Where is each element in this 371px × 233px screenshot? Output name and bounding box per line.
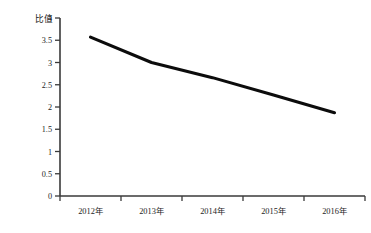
chart-plot-area: 比值 00.511.522.533.54 2012年2013年2014年2015… xyxy=(0,0,371,233)
y-tick-label: 2 xyxy=(48,103,52,112)
x-axis-tick-labels: 2012年2013年2014年2015年2016年 xyxy=(78,206,347,216)
series-line-0 xyxy=(91,37,335,113)
y-tick-label: 0.5 xyxy=(42,170,52,179)
y-tick-label: 3.5 xyxy=(42,36,52,45)
x-tick-label: 2016年 xyxy=(322,206,347,216)
y-tick-label: 2.5 xyxy=(42,81,52,90)
x-tick-label: 2012年 xyxy=(78,206,103,216)
y-tick-label: 1 xyxy=(48,148,52,157)
line-chart: 比值 00.511.522.533.54 2012年2013年2014年2015… xyxy=(0,0,371,233)
y-tick-label: 1.5 xyxy=(42,125,52,134)
y-tick-label: 0 xyxy=(48,192,52,201)
y-axis-tick-labels: 00.511.522.533.54 xyxy=(42,14,52,201)
x-tick-label: 2015年 xyxy=(261,206,286,216)
x-tick-label: 2014年 xyxy=(200,206,225,216)
y-tick-label: 4 xyxy=(48,14,52,23)
data-series-group xyxy=(91,37,335,113)
y-tick-label: 3 xyxy=(48,59,52,68)
x-tick-label: 2013年 xyxy=(139,206,164,216)
